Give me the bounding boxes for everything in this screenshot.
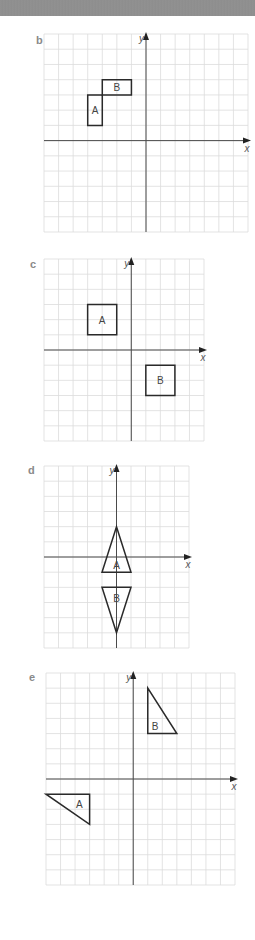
shape-label-a: A (76, 799, 83, 810)
coordinate-grid-c: xyAB (44, 259, 204, 441)
x-axis-label: x (200, 352, 207, 363)
part-label-d: d (28, 464, 35, 476)
x-axis-label: x (231, 781, 238, 792)
coordinate-grid-d: xyAB (44, 466, 189, 648)
header-bar (0, 0, 255, 16)
y-axis-label: y (125, 672, 132, 683)
shape-label-a: A (92, 105, 99, 116)
y-axis-label: y (138, 33, 145, 44)
shape-label-a: A (99, 315, 106, 326)
shape-label-b: B (157, 375, 164, 386)
part-label-c: c (30, 258, 36, 270)
shape-label-b: B (113, 593, 120, 604)
part-label-e: e (29, 671, 35, 683)
shape-label-a: A (113, 560, 120, 571)
shape-label-b: B (114, 82, 121, 93)
y-axis-label: y (123, 258, 130, 269)
coordinate-grid-b: xyAB (44, 34, 248, 232)
y-axis-label: y (109, 465, 116, 476)
part-label-b: b (36, 34, 43, 46)
x-axis-label: x (185, 559, 192, 570)
x-axis-label: x (244, 143, 251, 154)
shape-label-b: B (152, 721, 159, 732)
coordinate-grid-e: xyAB (46, 673, 235, 885)
